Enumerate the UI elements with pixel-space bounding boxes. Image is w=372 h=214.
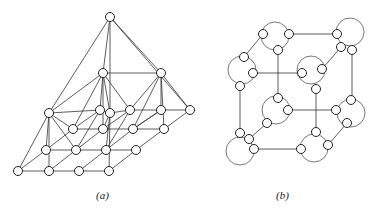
graph-node bbox=[332, 106, 341, 115]
graph-node bbox=[347, 96, 356, 105]
edge bbox=[18, 113, 49, 171]
graph-node bbox=[284, 106, 293, 115]
graph-node bbox=[274, 46, 283, 55]
graph-node bbox=[249, 69, 258, 78]
graph-node bbox=[72, 146, 81, 155]
graph-node bbox=[126, 106, 135, 115]
edge bbox=[76, 129, 103, 150]
graph-node bbox=[324, 141, 333, 150]
graph-node bbox=[157, 106, 166, 115]
graph-node bbox=[250, 145, 259, 154]
graph-node bbox=[105, 167, 114, 176]
graph-node bbox=[102, 146, 111, 155]
graph-node bbox=[157, 69, 166, 78]
edge bbox=[110, 17, 190, 110]
graph-node bbox=[132, 146, 141, 155]
edge bbox=[49, 73, 103, 113]
edge bbox=[46, 129, 73, 150]
edge bbox=[103, 73, 110, 113]
graph-node bbox=[99, 125, 108, 134]
panel-b-caption: (b) bbox=[276, 189, 289, 201]
edge bbox=[103, 73, 130, 110]
graph-node bbox=[99, 69, 108, 78]
graph-node bbox=[297, 145, 306, 154]
graph-node bbox=[240, 53, 249, 62]
graph-node bbox=[45, 167, 54, 176]
graph-node bbox=[337, 43, 346, 52]
graph-node bbox=[236, 129, 245, 138]
edge bbox=[161, 73, 190, 110]
graph-node bbox=[14, 167, 23, 176]
graph-node bbox=[129, 125, 138, 134]
graph-node bbox=[285, 30, 294, 39]
graph-node bbox=[106, 109, 115, 118]
edge bbox=[49, 150, 76, 171]
graph-node bbox=[45, 109, 54, 118]
figure-canvas bbox=[0, 0, 372, 214]
graph-node bbox=[333, 30, 342, 39]
edge bbox=[73, 73, 103, 129]
edge bbox=[109, 150, 136, 171]
edge bbox=[79, 150, 106, 171]
graph-node bbox=[343, 119, 352, 128]
graph-node bbox=[245, 135, 254, 144]
edge bbox=[136, 129, 164, 150]
graph-node bbox=[69, 125, 78, 134]
edge bbox=[161, 73, 164, 129]
edge bbox=[103, 17, 110, 73]
graph-node bbox=[263, 119, 272, 128]
graph-node bbox=[96, 106, 105, 115]
graph-node bbox=[75, 167, 84, 176]
graph-node bbox=[186, 106, 195, 115]
graph-node bbox=[348, 46, 357, 55]
graph-node bbox=[318, 65, 327, 74]
graph-node bbox=[42, 146, 51, 155]
edge bbox=[133, 110, 161, 129]
edge bbox=[49, 110, 100, 113]
graph-node bbox=[236, 82, 245, 91]
panel-a-caption: (a) bbox=[96, 189, 109, 201]
graph-node bbox=[106, 13, 115, 22]
graph-node bbox=[312, 85, 321, 94]
graph-node bbox=[259, 30, 268, 39]
panel-b-cube-cluster-graph bbox=[226, 18, 365, 165]
graph-node bbox=[160, 125, 169, 134]
graph-node bbox=[274, 94, 283, 103]
graph-node bbox=[298, 69, 307, 78]
panel-a-lattice-graph bbox=[14, 13, 195, 176]
graph-node bbox=[312, 128, 321, 137]
edge bbox=[18, 150, 46, 171]
